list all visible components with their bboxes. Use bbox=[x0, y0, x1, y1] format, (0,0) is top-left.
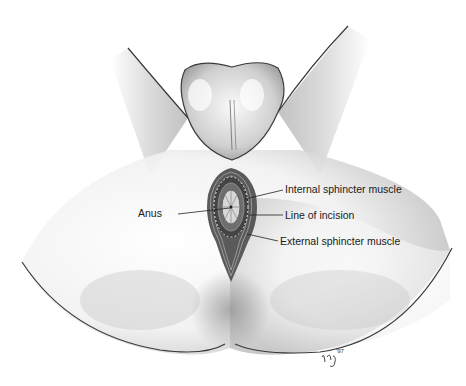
label-anus: Anus bbox=[138, 208, 162, 219]
label-line-of-incision: Line of incision bbox=[285, 210, 354, 221]
scrotum bbox=[181, 63, 284, 160]
label-internal-sphincter: Internal sphincter muscle bbox=[285, 184, 402, 195]
label-external-sphincter: External sphincter muscle bbox=[280, 236, 400, 247]
svg-text:'97: '97 bbox=[336, 348, 344, 354]
